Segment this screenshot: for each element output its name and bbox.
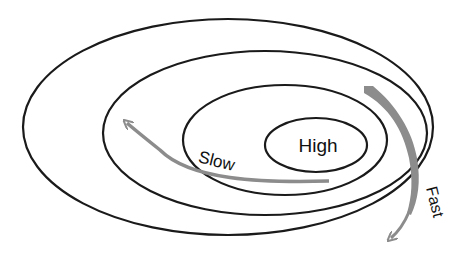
nested-ellipse-diagram: High Slow Fast — [0, 0, 467, 267]
second-ring — [103, 51, 427, 215]
high-label: High — [298, 135, 337, 156]
fast-label: Fast — [423, 185, 447, 220]
third-ring — [183, 85, 387, 195]
fast-arrow-tip — [391, 212, 409, 238]
outer-ring — [23, 19, 433, 235]
